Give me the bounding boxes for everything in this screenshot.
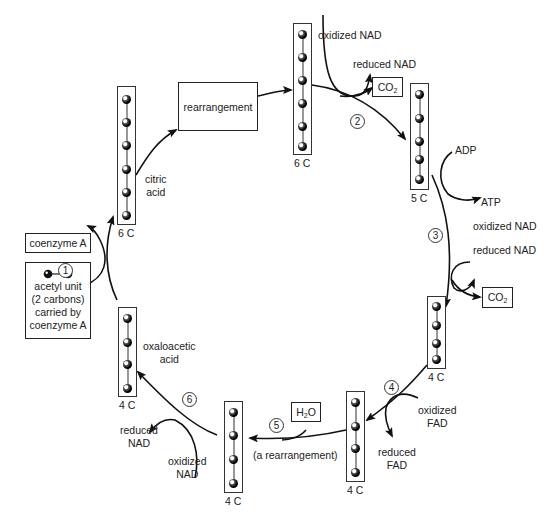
coenzyme-a-box: coenzyme A (25, 233, 91, 253)
step-2-marker: 2 (350, 114, 365, 129)
step2-oxidized-nad-label: oxidized NAD (318, 29, 382, 42)
step3-reduced-nad-label: reduced NAD (473, 244, 536, 257)
succinyl-molecule (427, 296, 446, 369)
acetyl-label-line: (2 carbons) (29, 293, 86, 306)
coenzyme-a-label: coenzyme A (29, 237, 86, 249)
rearrangement-box: rearrangement (178, 82, 258, 131)
succinate-molecule (346, 391, 365, 482)
step-5-marker: 5 (269, 418, 284, 433)
carbon-label: 6 C (294, 157, 310, 170)
h2o-label: H2O (296, 406, 316, 419)
carbon-label: 4 C (119, 399, 135, 412)
carbon-label: 4 C (347, 484, 363, 497)
step4-reduced-fad-label: reducedFAD (378, 446, 416, 472)
oxaloacetic-acid-molecule (118, 307, 137, 397)
h2o-box: H2O (291, 402, 321, 422)
step6-reduced-nad-label: reducedNAD (120, 424, 158, 450)
step-1-marker: 1 (58, 263, 73, 278)
citric-acid-label: citricacid (145, 173, 167, 199)
acetyl-label-line: carried by (29, 306, 86, 319)
step3-adp-label: ADP (455, 144, 477, 157)
co2-label: CO2 (378, 81, 398, 94)
step6-oxidized-nad-label: oxidizedNAD (168, 455, 207, 481)
step5-rearrangement-note: (a rearrangement) (253, 449, 338, 462)
acetyl-label-line: coenzyme A (29, 319, 86, 332)
rearrangement-label: rearrangement (184, 101, 253, 113)
step-3-marker: 3 (428, 228, 443, 243)
co2-label: CO2 (488, 291, 508, 304)
oxaloacetic-acid-label: oxaloaceticacid (143, 340, 196, 366)
step2-reduced-nad-label: reduced NAD (353, 58, 416, 71)
fumarate-molecule (224, 401, 243, 493)
step3-atp-label: ATP (481, 196, 501, 209)
carbon-label: 5 C (411, 192, 427, 205)
step-4-marker: 4 (384, 380, 399, 395)
step-6-marker: 6 (182, 392, 197, 407)
step4-oxidized-fad-label: oxidizedFAD (418, 404, 457, 430)
carbon-label: 4 C (428, 371, 444, 384)
carbon-label: 4 C (225, 495, 241, 508)
co2-box-step3: CO2 (482, 287, 513, 308)
alpha-ketoglutarate-molecule (410, 83, 429, 190)
citric-acid-molecule (117, 86, 136, 225)
co2-box-step2: CO2 (372, 77, 403, 97)
step3-oxidized-nad-label: oxidized NAD (473, 220, 537, 233)
carbon-label: 6 C (118, 227, 134, 240)
isocitrate-molecule (293, 23, 312, 155)
citric-acid-cycle-diagram: 6 C 6 C 5 C 4 C 4 C 4 C 4 C rearrangemen… (0, 0, 553, 525)
acetyl-label-line: acetyl unit (29, 280, 86, 293)
